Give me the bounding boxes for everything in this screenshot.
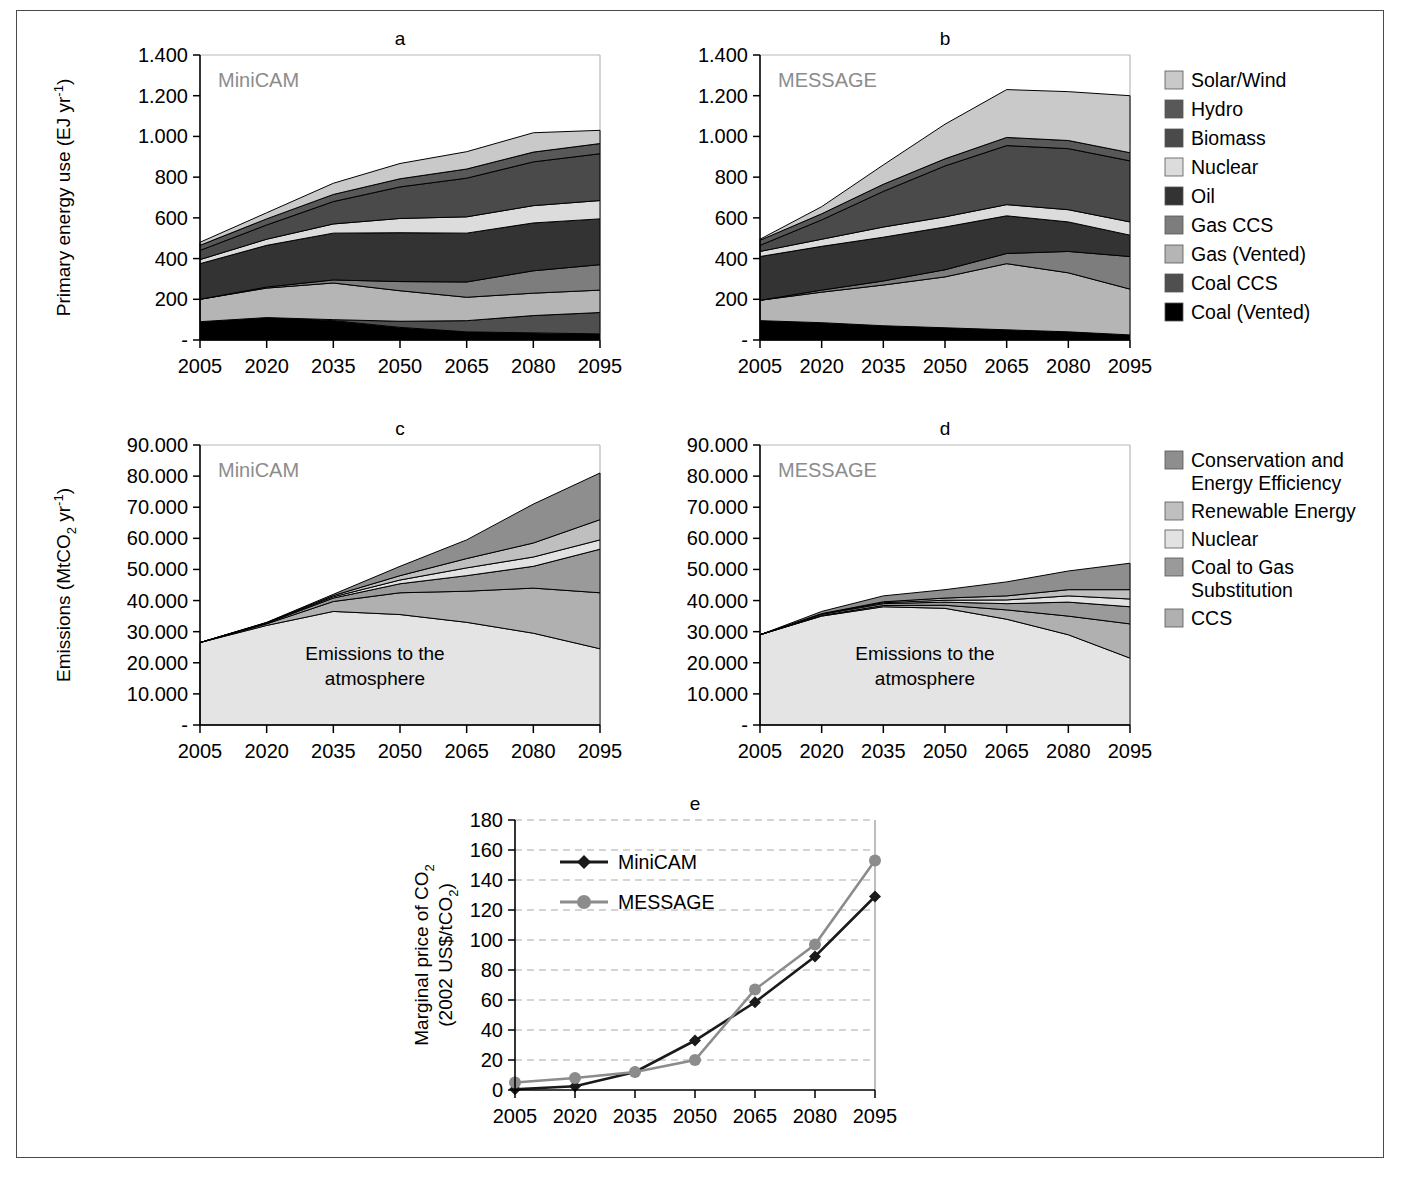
panel-d-svg: -10.00020.00030.00040.00050.00060.00070.… bbox=[630, 420, 1150, 780]
svg-text:Emissions (MtCO2 yr-1): Emissions (MtCO2 yr-1) bbox=[51, 488, 79, 682]
y-tick-label: 1.200 bbox=[138, 85, 188, 107]
legend-swatch bbox=[1165, 71, 1183, 89]
legend-swatch bbox=[1165, 274, 1183, 292]
y-tick-label: 30.000 bbox=[687, 621, 748, 643]
x-tick-label: 2020 bbox=[244, 740, 289, 762]
y-tick-label: 20.000 bbox=[127, 652, 188, 674]
y-tick-label: 1.000 bbox=[698, 125, 748, 147]
x-tick-label: 2095 bbox=[853, 1105, 898, 1127]
legend-swatch bbox=[1165, 158, 1183, 176]
y-tick-label: - bbox=[741, 714, 748, 736]
x-tick-label: 2020 bbox=[244, 355, 289, 377]
x-tick-label: 2095 bbox=[1108, 740, 1153, 762]
atmosphere-label-line2: atmosphere bbox=[875, 668, 975, 689]
panel-d: -10.00020.00030.00040.00050.00060.00070.… bbox=[630, 420, 1150, 780]
x-tick-label: 2065 bbox=[984, 355, 1029, 377]
y-axis-label-2: (2002 US$/tCO2) bbox=[435, 883, 461, 1026]
legend-marker bbox=[577, 855, 591, 869]
y-tick-label: 70.000 bbox=[687, 496, 748, 518]
y-tick-label: 800 bbox=[155, 166, 188, 188]
legend-label: Coal to Gas bbox=[1191, 556, 1294, 578]
model-annotation: MESSAGE bbox=[778, 459, 877, 481]
panel-a: -2004006008001.0001.2001.400200520202035… bbox=[40, 30, 630, 395]
x-tick-label: 2080 bbox=[511, 740, 556, 762]
legend-label: MiniCAM bbox=[618, 851, 697, 873]
x-tick-label: 2005 bbox=[738, 740, 783, 762]
x-tick-label: 2050 bbox=[923, 740, 968, 762]
x-tick-label: 2005 bbox=[493, 1105, 538, 1127]
x-tick-label: 2050 bbox=[378, 355, 423, 377]
x-tick-label: 2065 bbox=[984, 740, 1029, 762]
data-point-marker bbox=[569, 1072, 581, 1084]
legend-label: Hydro bbox=[1191, 98, 1243, 120]
y-tick-label: 20.000 bbox=[687, 652, 748, 674]
svg-text:(2002 US$/tCO2): (2002 US$/tCO2) bbox=[435, 883, 461, 1026]
y-tick-label: 10.000 bbox=[127, 683, 188, 705]
x-tick-label: 2095 bbox=[1108, 355, 1153, 377]
x-tick-label: 2080 bbox=[1046, 740, 1091, 762]
y-tick-label: 180 bbox=[470, 809, 503, 831]
y-tick-label: 1.200 bbox=[698, 85, 748, 107]
x-tick-label: 2080 bbox=[511, 355, 556, 377]
legend-label: Renewable Energy bbox=[1191, 500, 1356, 522]
y-tick-label: 20 bbox=[481, 1049, 503, 1071]
y-tick-label: 600 bbox=[715, 207, 748, 229]
legend-label: Conservation and bbox=[1191, 449, 1344, 471]
svg-text:Marginal price of CO2: Marginal price of CO2 bbox=[411, 864, 437, 1045]
legend-swatch bbox=[1165, 245, 1183, 263]
x-tick-label: 2035 bbox=[311, 740, 356, 762]
y-tick-label: 60.000 bbox=[687, 527, 748, 549]
legend-swatch bbox=[1165, 216, 1183, 234]
x-tick-label: 2020 bbox=[553, 1105, 598, 1127]
legend-swatch bbox=[1165, 502, 1183, 520]
x-tick-label: 2005 bbox=[738, 355, 783, 377]
y-tick-label: 10.000 bbox=[687, 683, 748, 705]
panel-letter: a bbox=[395, 28, 406, 49]
wedge-legend-svg: Conservation andEnergy EfficiencyRenewab… bbox=[1165, 450, 1397, 630]
energy-legend: Solar/WindHydroBiomassNuclearOilGas CCSG… bbox=[1165, 70, 1395, 340]
x-tick-label: 2050 bbox=[673, 1105, 718, 1127]
legend-swatch bbox=[1165, 530, 1183, 548]
x-tick-label: 2095 bbox=[578, 740, 623, 762]
y-tick-label: 120 bbox=[470, 899, 503, 921]
y-tick-label: 1.400 bbox=[698, 44, 748, 66]
legend-label: Coal CCS bbox=[1191, 272, 1278, 294]
x-tick-label: 2035 bbox=[613, 1105, 658, 1127]
legend-label: Oil bbox=[1191, 185, 1215, 207]
y-tick-label: 60 bbox=[481, 989, 503, 1011]
legend-swatch bbox=[1165, 129, 1183, 147]
y-tick-label: 80.000 bbox=[127, 465, 188, 487]
legend-label: Gas (Vented) bbox=[1191, 243, 1306, 265]
legend-label: Biomass bbox=[1191, 127, 1266, 149]
y-tick-label: 0 bbox=[492, 1079, 503, 1101]
legend-marker bbox=[577, 895, 591, 909]
y-tick-label: 90.000 bbox=[687, 434, 748, 456]
data-point-marker bbox=[629, 1066, 641, 1078]
y-tick-label: 140 bbox=[470, 869, 503, 891]
y-tick-label: 40 bbox=[481, 1019, 503, 1041]
panel-letter: e bbox=[690, 793, 701, 814]
legend-label: CCS bbox=[1191, 607, 1232, 629]
x-tick-label: 2050 bbox=[378, 740, 423, 762]
y-tick-label: 200 bbox=[155, 288, 188, 310]
x-tick-label: 2050 bbox=[923, 355, 968, 377]
legend-swatch bbox=[1165, 187, 1183, 205]
atmosphere-label-line2: atmosphere bbox=[325, 668, 425, 689]
y-tick-label: - bbox=[181, 714, 188, 736]
y-tick-label: 160 bbox=[470, 839, 503, 861]
y-tick-label: 800 bbox=[715, 166, 748, 188]
y-tick-label: - bbox=[741, 329, 748, 351]
y-tick-label: 600 bbox=[155, 207, 188, 229]
legend-swatch bbox=[1165, 100, 1183, 118]
y-tick-label: 1.400 bbox=[138, 44, 188, 66]
panel-c: -10.00020.00030.00040.00050.00060.00070.… bbox=[40, 420, 630, 780]
x-tick-label: 2095 bbox=[578, 355, 623, 377]
data-point-marker bbox=[749, 984, 761, 996]
legend-label: MESSAGE bbox=[618, 891, 714, 913]
legend-label: Gas CCS bbox=[1191, 214, 1273, 236]
legend-swatch bbox=[1165, 451, 1183, 469]
legend-swatch bbox=[1165, 303, 1183, 321]
y-axis-label: Emissions (MtCO2 yr-1) bbox=[51, 488, 79, 682]
svg-text:Primary energy use (EJ yr-1): Primary energy use (EJ yr-1) bbox=[51, 79, 74, 317]
x-tick-label: 2020 bbox=[799, 740, 844, 762]
